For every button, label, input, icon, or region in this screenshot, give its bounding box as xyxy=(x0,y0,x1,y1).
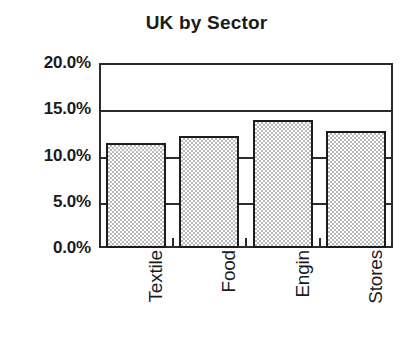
x-tick-label-engin: Engin xyxy=(292,250,314,298)
y-tick-label: 5.0% xyxy=(53,192,91,212)
y-tick-label: 0.0% xyxy=(53,238,91,258)
x-axis: TextileFoodEnginStores xyxy=(99,250,393,343)
x-tick-label-textile: Textile xyxy=(145,250,167,302)
bar-textile xyxy=(106,143,166,248)
y-tick-label: 15.0% xyxy=(44,99,91,119)
bar-food xyxy=(179,136,239,248)
x-tick-label-stores: Stores xyxy=(365,250,387,304)
bars-layer xyxy=(99,63,393,248)
bar-chart: UK by Sector 20.0%15.0%10.0%5.0%0.0% Tex… xyxy=(0,0,413,343)
y-tick-label: 20.0% xyxy=(44,53,91,73)
y-axis: 20.0%15.0%10.0%5.0%0.0% xyxy=(0,63,95,248)
bar-engin xyxy=(253,120,313,248)
y-tick-label: 10.0% xyxy=(44,146,91,166)
bar-stores xyxy=(326,131,386,248)
x-axis-tick xyxy=(245,238,247,247)
chart-title: UK by Sector xyxy=(0,12,413,34)
x-tick-label-food: Food xyxy=(218,250,240,293)
x-axis-tick xyxy=(319,238,321,247)
x-axis-tick xyxy=(172,238,174,247)
